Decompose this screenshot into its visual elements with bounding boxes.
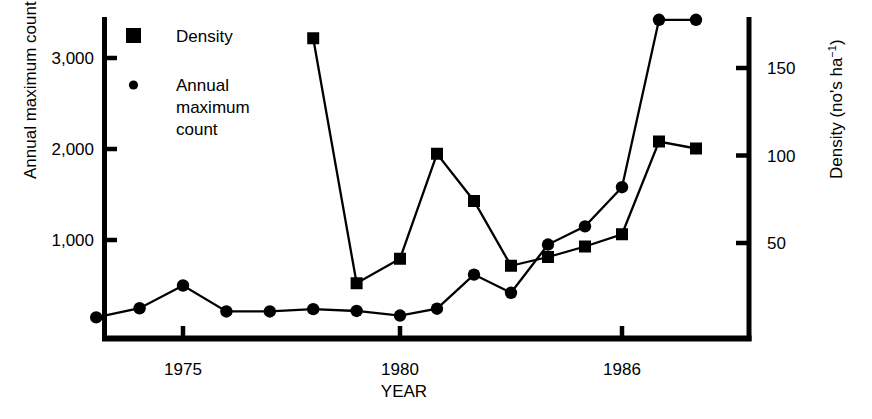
right-tick-label-100: 100 [767, 147, 795, 166]
x-tick-label-1980: 1980 [381, 360, 419, 379]
data-point-circle-1974 [133, 302, 145, 314]
data-point-square-1978 [307, 32, 319, 44]
data-point-circle-1978 [307, 303, 319, 315]
data-point-circle-1988 [690, 14, 702, 26]
x-axis-title: YEAR [381, 382, 427, 401]
left-tick-label-2000: 2,000 [51, 140, 94, 159]
data-point-circle-1986 [616, 181, 628, 193]
data-point-circle-1976 [220, 305, 232, 317]
data-point-circle-1980 [394, 309, 406, 321]
right-tick-label-150: 150 [767, 59, 795, 78]
x-tick-label-1975: 1975 [164, 360, 202, 379]
data-point-circle-1983 [505, 287, 517, 299]
legend-label-count-line3: count [176, 120, 218, 139]
data-point-square-1984 [542, 251, 554, 263]
data-point-circle-1973 [90, 311, 102, 323]
chart-legend: Density Annual maximum count [126, 27, 250, 139]
right-axis-title-superscript: −1 [826, 45, 838, 58]
series-annual-maximum-count [90, 14, 702, 324]
data-point-square-1986 [616, 228, 628, 240]
legend-label-density: Density [176, 27, 233, 46]
data-point-circle-1987 [653, 14, 665, 26]
right-axis-title-main: Density (no's ha [827, 57, 846, 179]
right-tick-label-50: 50 [767, 234, 786, 253]
figure: 1,0002,0003,000 50100150 197519801986 An… [0, 0, 872, 419]
plot-frame [102, 17, 752, 341]
x-tick-label-1986: 1986 [603, 360, 641, 379]
right-axis-title-tail: ) [827, 39, 846, 45]
data-point-circle-1975 [177, 279, 189, 291]
legend-marker-circle-icon [129, 80, 138, 89]
data-point-square-1979 [351, 277, 363, 289]
data-point-circle-1979 [350, 305, 362, 317]
data-point-circle-1982 [468, 268, 480, 280]
series-density [307, 32, 702, 289]
legend-marker-square-icon [126, 28, 141, 43]
chart-canvas: 1,0002,0003,000 50100150 197519801986 An… [0, 0, 872, 419]
data-point-square-1987 [653, 136, 665, 148]
series-line-circle [96, 20, 696, 318]
data-point-circle-1985 [579, 220, 591, 232]
left-axis-title: Annual maximum count [21, 1, 40, 179]
left-tick-label-1000: 1,000 [51, 231, 94, 250]
right-axis-tick-labels: 50100150 [767, 59, 795, 253]
data-point-square-1988 [690, 143, 702, 155]
series-line-square [313, 38, 696, 283]
legend-label-count-line2: maximum [176, 98, 250, 117]
data-point-square-1982 [468, 195, 480, 207]
data-point-circle-1977 [264, 305, 276, 317]
left-axis-tick-labels: 1,0002,0003,000 [51, 49, 94, 250]
left-tick-label-3000: 3,000 [51, 49, 94, 68]
data-point-square-1983 [505, 260, 517, 272]
data-point-square-1981 [431, 148, 443, 160]
data-point-square-1980 [394, 253, 406, 265]
legend-label-count-line1: Annual [176, 76, 229, 95]
right-axis-title: Density (no's ha−1) [826, 39, 846, 179]
data-point-circle-1981 [431, 303, 443, 315]
data-point-square-1985 [579, 241, 591, 253]
bottom-axis-tick-labels: 197519801986 [164, 360, 641, 379]
data-point-circle-1984 [542, 238, 554, 250]
